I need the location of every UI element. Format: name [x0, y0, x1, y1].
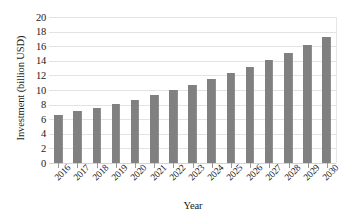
bar[interactable]	[265, 60, 274, 163]
bar[interactable]	[207, 79, 216, 163]
bar-slot	[87, 17, 106, 163]
bar[interactable]	[169, 90, 178, 163]
bar-slot	[202, 17, 221, 163]
bar[interactable]	[54, 115, 63, 163]
x-label-slot: 2016	[49, 168, 68, 200]
bar[interactable]	[150, 95, 159, 163]
bar[interactable]	[246, 67, 255, 163]
bar-slot	[260, 17, 279, 163]
x-label-slot: 2025	[222, 168, 241, 200]
y-tick-label: 14	[20, 55, 46, 66]
x-label-slot: 2019	[107, 168, 126, 200]
bar[interactable]	[227, 73, 236, 163]
bar-slot	[145, 17, 164, 163]
bar[interactable]	[322, 37, 331, 163]
x-label-slot: 2022	[164, 168, 183, 200]
bar-chart-figure: Investment (billion USD) 024681012141618…	[0, 0, 344, 219]
plot-area	[49, 17, 337, 163]
x-axis-title: Year	[49, 199, 337, 212]
y-tick-label: 8	[20, 99, 46, 110]
y-tick-label: 20	[20, 12, 46, 23]
y-tick-label: 0	[20, 158, 46, 169]
bar[interactable]	[112, 104, 121, 163]
x-label-slot: 2027	[260, 168, 279, 200]
y-tick-label: 4	[20, 128, 46, 139]
x-label-slot: 2018	[87, 168, 106, 200]
x-label-slot: 2029	[299, 168, 318, 200]
y-axis-tick-labels: 02468101214161820	[20, 11, 46, 163]
bar-slot	[126, 17, 145, 163]
x-label-slot: 2024	[203, 168, 222, 200]
bar-slot	[298, 17, 317, 163]
x-label-slot: 2030	[318, 168, 337, 200]
x-label-slot: 2026	[241, 168, 260, 200]
y-tick-label: 18	[20, 26, 46, 37]
y-tick-label: 6	[20, 114, 46, 125]
bar-slot	[49, 17, 68, 163]
bar-slot	[317, 17, 336, 163]
bars-layer	[49, 17, 336, 163]
x-label-slot: 2017	[68, 168, 87, 200]
bar-slot	[106, 17, 125, 163]
bar[interactable]	[73, 111, 82, 163]
bar[interactable]	[303, 45, 312, 163]
x-label-slot: 2028	[279, 168, 298, 200]
bar-slot	[240, 17, 259, 163]
bar-slot	[164, 17, 183, 163]
bar-slot	[68, 17, 87, 163]
bar[interactable]	[284, 53, 293, 163]
bar[interactable]	[188, 85, 197, 163]
y-tick-label: 2	[20, 143, 46, 154]
x-label-slot: 2023	[183, 168, 202, 200]
bar[interactable]	[131, 100, 140, 164]
x-label-slot: 2020	[126, 168, 145, 200]
bar[interactable]	[93, 108, 102, 163]
x-label-slot: 2021	[145, 168, 164, 200]
y-tick-label: 16	[20, 41, 46, 52]
y-tick-label: 10	[20, 85, 46, 96]
bar-slot	[183, 17, 202, 163]
x-axis-tick-labels: 2016201720182019202020212022202320242025…	[49, 168, 337, 200]
bar-slot	[221, 17, 240, 163]
bar-slot	[279, 17, 298, 163]
y-tick-label: 12	[20, 70, 46, 81]
